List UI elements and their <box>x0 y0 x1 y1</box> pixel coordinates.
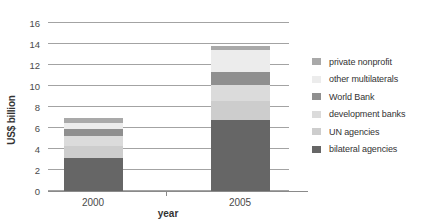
bar-segment-2005-other-multilaterals <box>211 50 270 72</box>
y-tick-label-4: 4 <box>0 144 40 155</box>
y-tick-label-0: 0 <box>0 186 40 197</box>
y-axis-title: US$ billion <box>6 60 20 180</box>
y-tick-label-12: 12 <box>0 60 40 71</box>
legend-label: UN agencies <box>329 127 379 137</box>
bar-segment-2005-UN-agencies <box>211 101 270 120</box>
gridline-y-14 <box>48 43 289 44</box>
y-tick-label-6: 6 <box>0 123 40 134</box>
x-axis-line <box>48 191 308 192</box>
bar-segment-2005-World-Bank <box>211 72 270 85</box>
stacked-bar-chart: US$ billion year private nonprofitother … <box>0 0 426 224</box>
legend-item-development-banks: development banks <box>312 106 405 124</box>
legend: private nonprofitother multilateralsWorl… <box>312 53 405 158</box>
bar-2000 <box>64 118 123 191</box>
y-tick-label-16: 16 <box>0 18 40 29</box>
legend-swatch-icon <box>312 93 321 100</box>
legend-swatch-icon <box>312 146 321 153</box>
legend-label: bilateral agencies <box>329 144 397 154</box>
legend-item-private-nonprofit: private nonprofit <box>312 53 405 71</box>
bar-segment-2000-World-Bank <box>64 129 123 136</box>
x-axis-tick <box>166 191 167 196</box>
x-tick-label-2005: 2005 <box>210 197 270 208</box>
y-tick-label-10: 10 <box>0 81 40 92</box>
legend-label: private nonprofit <box>329 57 392 67</box>
legend-swatch-icon <box>312 111 321 118</box>
gridline-y-16 <box>48 22 289 23</box>
legend-swatch-icon <box>312 128 321 135</box>
x-axis-title: year <box>138 208 198 219</box>
plot-area <box>48 23 289 191</box>
legend-item-other-multilaterals: other multilaterals <box>312 71 405 89</box>
legend-swatch-icon <box>312 58 321 65</box>
legend-swatch-icon <box>312 76 321 83</box>
legend-label: other multilaterals <box>329 74 398 84</box>
bar-segment-2005-development-banks <box>211 85 270 101</box>
bar-segment-2005-bilateral-agencies <box>211 120 270 191</box>
y-tick-label-14: 14 <box>0 39 40 50</box>
legend-item-bilateral-agencies: bilateral agencies <box>312 141 405 159</box>
bar-segment-2000-bilateral-agencies <box>64 158 123 191</box>
legend-label: World Bank <box>329 92 374 102</box>
legend-item-World-Bank: World Bank <box>312 88 405 106</box>
bar-segment-2000-UN-agencies <box>64 146 123 159</box>
y-tick-label-8: 8 <box>0 102 40 113</box>
legend-item-UN-agencies: UN agencies <box>312 123 405 141</box>
legend-label: development banks <box>329 109 405 119</box>
y-tick-label-2: 2 <box>0 165 40 176</box>
bar-2005 <box>211 46 270 191</box>
bar-segment-2000-development-banks <box>64 136 123 145</box>
x-tick-label-2000: 2000 <box>63 197 123 208</box>
